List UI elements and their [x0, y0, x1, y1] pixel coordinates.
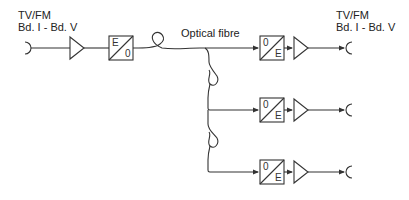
- receiver-3-top: 0: [263, 161, 269, 172]
- receiver-2-bottom: E: [275, 110, 282, 121]
- receiver-3: [260, 160, 352, 184]
- input-amplifier-icon: [70, 37, 84, 59]
- fibre-loop-main: [133, 32, 200, 49]
- signal-diagram: E 0 0 E 0 E 0 E: [0, 0, 409, 200]
- fibre-loop-lower: [208, 110, 218, 147]
- transmitter-bottom: 0: [125, 48, 131, 59]
- receiver-1-bottom: E: [275, 48, 282, 59]
- fibre-trunk: [205, 48, 218, 85]
- receiver-2: [260, 98, 352, 122]
- input-socket-icon: [25, 42, 31, 54]
- receiver-2-top: 0: [263, 99, 269, 110]
- receiver-1-top: 0: [263, 37, 269, 48]
- receiver-3-bottom: E: [275, 172, 282, 183]
- receiver-1: [260, 36, 352, 60]
- transmitter-top: E: [112, 37, 119, 48]
